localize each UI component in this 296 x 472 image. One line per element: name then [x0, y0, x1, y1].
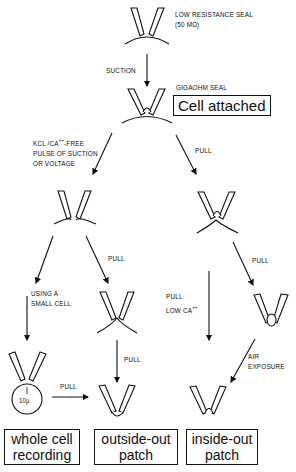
arrow-pull-mid-left	[86, 236, 108, 283]
label-pull-right-top: PULL	[195, 146, 212, 156]
label-pull-bottom: PULL	[60, 382, 77, 392]
label-pull-right-mid: PULL	[252, 256, 269, 266]
pipette-whole-cell-intermediate	[54, 191, 96, 224]
label-suction: SUCTION	[106, 66, 136, 76]
pipette-vesicle	[254, 294, 288, 326]
arrow-pull-right-mid	[233, 242, 253, 285]
label-low-resistance-seal: LOW RESISTANCE SEAL (50 MΩ)	[175, 10, 253, 30]
pipette-low-resistance	[125, 8, 169, 44]
label-pull-to-outside: PULL	[124, 355, 141, 365]
label-using-small-cell: USING A SMALL CELL	[31, 289, 71, 309]
label-pull-mid-left: PULL	[108, 254, 125, 264]
pipette-inside-out	[190, 386, 226, 414]
label-pulse: KCl /Ca++-FREE PULSE OF SUCTION OR VOLTA…	[33, 135, 98, 169]
cell-attached-box: Cell attached	[173, 95, 271, 116]
diagram-graphics	[0, 0, 296, 472]
label-pull-low-ca: PULL LOW Ca++	[166, 292, 197, 316]
arrow-small-cell	[36, 236, 53, 283]
result-outside-out-box: outside-out patch	[94, 429, 178, 465]
pipette-cell-attached	[122, 89, 172, 123]
label-cell-size: 10μ	[19, 396, 30, 406]
result-whole-cell-box: whole cell recording	[4, 429, 80, 465]
arrow-pull-right	[176, 135, 196, 174]
result-inside-out-box: inside-out patch	[186, 429, 258, 465]
pipette-outside-out-intermediate	[97, 292, 137, 333]
pipette-outside-out	[99, 385, 135, 416]
label-air-exposure: AIR EXPOSURE	[248, 352, 285, 372]
label-gigaohm-seal: GIGAOHM SEAL	[176, 83, 227, 93]
pipette-pulled-cell-attached	[197, 192, 238, 233]
